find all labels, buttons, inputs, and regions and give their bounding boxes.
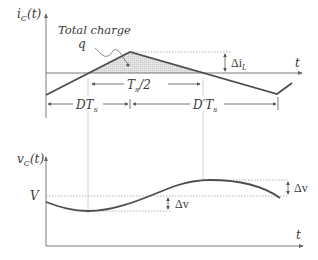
delta-v-lower-label: Δv [175,197,189,211]
voltage-plot: Δv Δv vC(t) V t [17,152,308,246]
charge-q-label: q [78,37,86,51]
v-average-label: V [30,189,40,203]
annotation-dot [126,63,129,66]
charge-area [88,52,203,73]
capacitor-ripple-diagram: Ts/2 DTs D′Ts ΔiL Total charge q iC(t) t [0,0,318,260]
voltage-time-label: t [296,228,301,242]
voltage-waveform [46,180,280,211]
current-axis-label: iC(t) [17,7,41,23]
ripple-current-label: ΔiL [231,56,247,72]
delta-v-upper-label: Δv [294,181,308,195]
current-plot: Ts/2 DTs D′Ts ΔiL Total charge q iC(t) t [17,7,302,214]
current-time-label: t [295,56,300,70]
half-period-label: Ts/2 [127,78,151,94]
total-charge-label: Total charge [58,23,131,37]
voltage-axis-label: vC(t) [17,152,44,168]
